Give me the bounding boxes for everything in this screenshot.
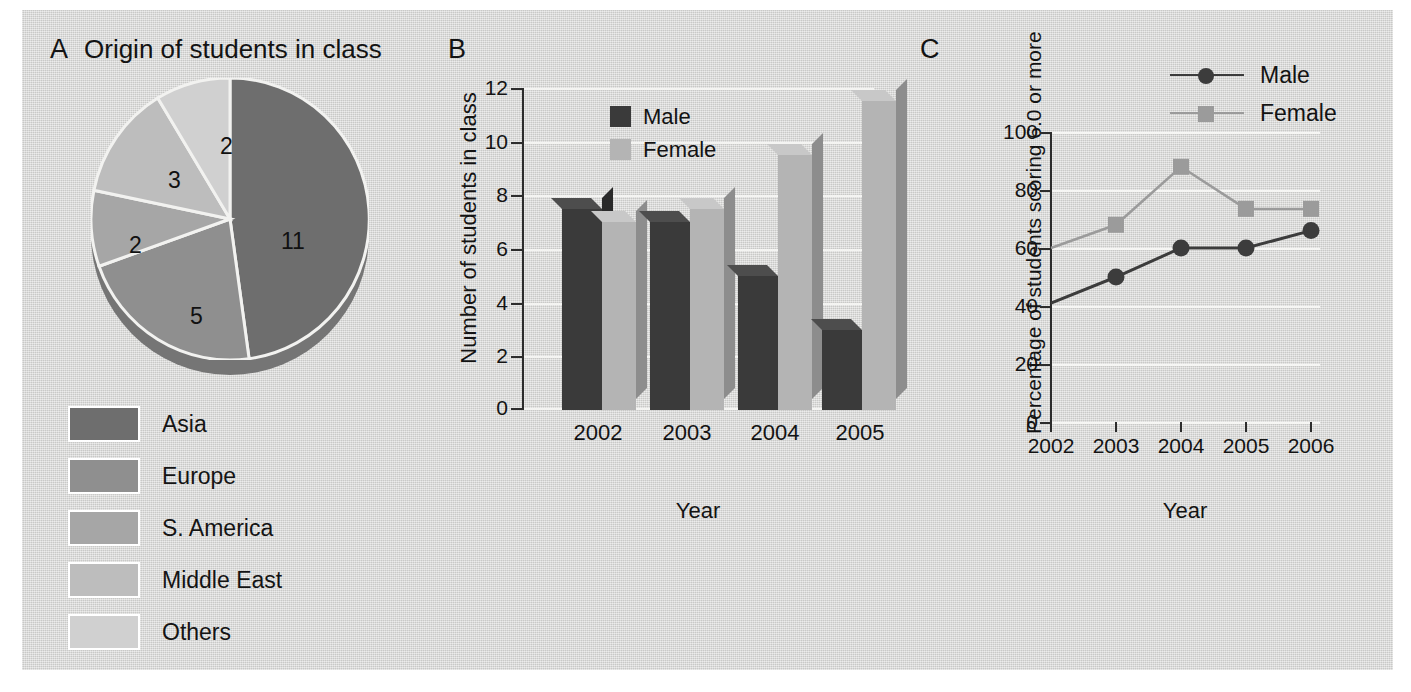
xtick-label-2005: 2005 — [812, 420, 908, 446]
legend-item-female: Female — [610, 133, 716, 166]
ytick-label-8: 8 — [468, 183, 508, 207]
xtick-2003 — [1115, 422, 1117, 432]
legend-label-europe: Europe — [162, 463, 236, 490]
marker-female-2006 — [1303, 201, 1319, 217]
pie-value-others: 2 — [220, 133, 233, 160]
ytick-100 — [1040, 132, 1050, 134]
panel-a-pie-chart: A Origin of students in class — [22, 10, 442, 670]
legend-label-asia: Asia — [162, 411, 207, 438]
ytick-label-0: 0 — [468, 396, 508, 420]
legend-item-s-america: S. America — [68, 502, 282, 554]
legend-item-middle-east: Middle East — [68, 554, 282, 606]
legend-item-female: Female — [1170, 94, 1337, 132]
bar-face — [562, 209, 602, 410]
ytick-6 — [511, 249, 522, 251]
xtick-label-2004: 2004 — [1151, 434, 1211, 458]
xtick-label-2005: 2005 — [1216, 434, 1276, 458]
pie-value-asia: 11 — [281, 228, 305, 255]
xtick-label-2004: 2004 — [727, 420, 823, 446]
ytick-60 — [1040, 248, 1050, 250]
ytick-label-2: 2 — [468, 344, 508, 368]
bar-2004-male — [738, 276, 778, 410]
legend-swatch-s-america — [68, 510, 140, 546]
ytick-label-0: 0 — [990, 410, 1038, 434]
panel-b-y-axis-line — [522, 88, 524, 410]
panel-b-y-axis-label: Number of students in class — [456, 83, 482, 373]
series-line-female — [1051, 167, 1311, 248]
legend-label-male: Male — [1260, 62, 1310, 89]
xtick-2004 — [1180, 422, 1182, 432]
legend-label-s-america: S. America — [162, 515, 273, 542]
legend-label-others: Others — [162, 619, 231, 646]
bar-face — [822, 330, 862, 411]
xtick-label-2002: 2002 — [1021, 434, 1081, 458]
xtick-2002 — [1050, 422, 1052, 432]
legend-swatch-europe — [68, 458, 140, 494]
bar-face — [602, 222, 636, 410]
panel-b-bar-chart: B Number of students in class 12 10 8 6 … — [420, 10, 890, 670]
bar-2005-male — [822, 330, 862, 411]
bar-2003-female — [690, 209, 724, 410]
bar-face — [738, 276, 778, 410]
bar-top — [767, 144, 812, 155]
bar-face — [650, 222, 690, 410]
ytick-label-80: 80 — [990, 178, 1038, 202]
panel-c-legend: Male Female — [1170, 56, 1337, 132]
pie-value-europe: 5 — [190, 303, 203, 330]
bar-2005-female — [862, 101, 896, 410]
xtick-2006 — [1310, 422, 1312, 432]
ytick-label-10: 10 — [468, 130, 508, 154]
ytick-40 — [1040, 306, 1050, 308]
bar-side — [724, 187, 735, 399]
panel-c-x-axis-label: Year — [1050, 498, 1320, 524]
circle-marker-icon — [1198, 68, 1214, 84]
ytick-12 — [511, 88, 522, 90]
ytick-0 — [511, 408, 522, 410]
legend-item-male: Male — [610, 100, 716, 133]
panel-c-series-graphic — [1050, 132, 1322, 424]
panel-b-legend: Male Female — [610, 100, 716, 166]
panel-c-line-chart: C Percentage of students scoring 6.0 or … — [902, 10, 1393, 670]
square-marker-icon — [1198, 106, 1214, 122]
legend-item-male: Male — [1170, 56, 1337, 94]
ytick-label-12: 12 — [468, 76, 508, 100]
ytick-2 — [511, 356, 522, 358]
ytick-label-40: 40 — [990, 294, 1038, 318]
ytick-8 — [511, 195, 522, 197]
xtick-label-2002: 2002 — [550, 420, 646, 446]
pie-value-middle-east: 3 — [168, 167, 181, 194]
bar-top — [679, 198, 724, 209]
ytick-label-6: 6 — [468, 237, 508, 261]
panel-a-letter: A — [50, 34, 69, 65]
ytick-label-60: 60 — [990, 236, 1038, 260]
xtick-label-2006: 2006 — [1281, 434, 1341, 458]
panel-c-plot-area: 100 80 60 40 20 0 — [1050, 132, 1320, 422]
marker-female-2005 — [1238, 201, 1254, 217]
pie-slices — [91, 78, 369, 360]
legend-item-asia: Asia — [68, 398, 282, 450]
legend-label-middle-east: Middle East — [162, 567, 282, 594]
ytick-label-100: 100 — [990, 120, 1038, 144]
gridline-12 — [522, 88, 874, 90]
pie-chart-graphic: 11 5 2 3 2 — [80, 60, 380, 390]
bar-side — [636, 200, 647, 399]
ytick-20 — [1040, 364, 1050, 366]
bar-2003-male — [650, 222, 690, 410]
bar-face — [778, 155, 812, 410]
ytick-label-20: 20 — [990, 352, 1038, 376]
bar-face — [690, 209, 724, 410]
panel-c-letter: C — [920, 34, 940, 65]
bar-face — [862, 101, 896, 410]
legend-item-others: Others — [68, 606, 282, 658]
legend-swatch-asia — [68, 406, 140, 442]
ytick-4 — [511, 303, 522, 305]
ytick-80 — [1040, 190, 1050, 192]
marker-male-2004 — [1173, 240, 1190, 257]
legend-swatch-others — [68, 614, 140, 650]
bar-2002-female — [602, 222, 636, 410]
xtick-label-2003: 2003 — [1086, 434, 1146, 458]
legend-swatch-middle-east — [68, 562, 140, 598]
panel-b-letter: B — [448, 34, 467, 65]
marker-female-2004 — [1173, 159, 1189, 175]
xtick-2005 — [1245, 422, 1247, 432]
